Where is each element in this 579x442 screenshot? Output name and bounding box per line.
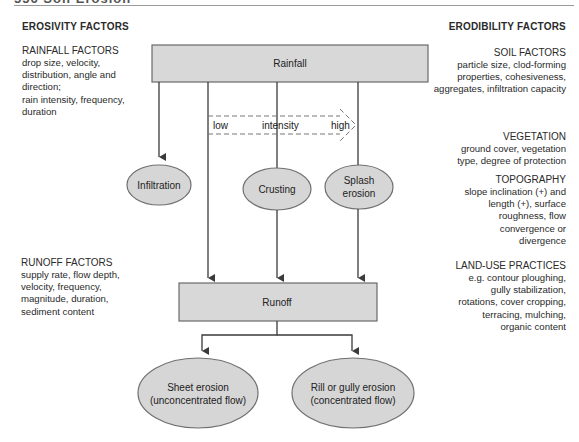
arrow-runoff-to-sheet <box>202 321 277 351</box>
intensity-high-label: high <box>331 120 350 131</box>
splash-erosion-label-2: erosion <box>343 188 376 199</box>
infiltration-label: Infiltration <box>137 180 180 191</box>
rill-gully-erosion-label-2: (concentrated flow) <box>310 395 395 406</box>
sheet-erosion-label-1: Sheet erosion <box>167 382 229 393</box>
intensity-label: intensity <box>262 120 299 131</box>
rill-gully-erosion-node <box>292 358 414 428</box>
arrow-runoff-to-rill <box>277 335 352 351</box>
splash-erosion-label-1: Splash <box>344 175 375 186</box>
rill-gully-erosion-label-1: Rill or gully erosion <box>311 382 395 393</box>
splash-erosion-node <box>325 165 393 209</box>
erosion-flow-diagram: Rainfall low intensity high Infiltration… <box>0 0 579 442</box>
runoff-label: Runoff <box>262 297 292 308</box>
crusting-label: Crusting <box>258 184 295 195</box>
sheet-erosion-label-2: (unconcentrated flow) <box>150 395 246 406</box>
intensity-low-label: low <box>213 120 229 131</box>
sheet-erosion-node <box>138 358 258 428</box>
rainfall-label: Rainfall <box>273 58 306 69</box>
